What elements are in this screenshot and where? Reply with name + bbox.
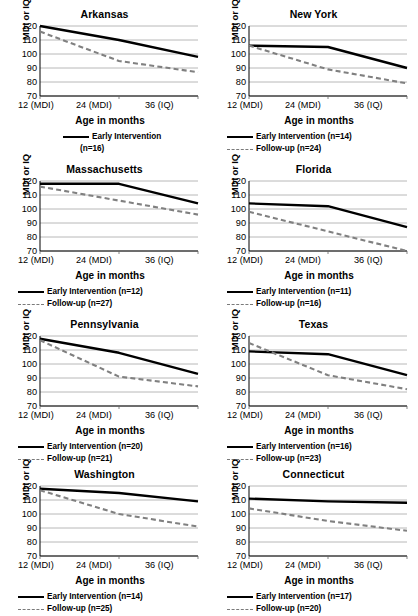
legend: Early Intervention (n=12)Follow-up (n=27… [18,286,208,310]
plot-area: 708090100110120 [14,177,204,255]
plot-area: 708090100110120 [223,332,413,410]
y-tick-label: 120 [22,482,37,491]
x-tick-label: 24 (MDI) [76,560,112,570]
panel-title: New York [209,8,418,20]
y-tick-label: 80 [27,387,37,397]
legend-solid-swatch-icon [63,136,89,138]
y-tick-label: 80 [27,232,37,242]
x-axis-title: Age in months [14,575,206,586]
y-tick-label: 120 [22,177,37,186]
legend-item: Follow-up (n=24) [227,143,417,155]
y-tick-label: 70 [236,246,246,255]
y-tick-label: 120 [231,332,246,341]
x-tick-labels: 12 (MDI)24 (MDI)36 (IQ) [14,100,206,114]
legend: Early Intervention (n=14)Follow-up (n=24… [227,131,417,155]
y-tick-label: 100 [22,359,37,369]
y-tick-label: 70 [27,401,37,410]
x-axis-title: Age in months [14,270,206,281]
chart-panel: WashingtonMDI or IQ70809010011012012 (MD… [0,460,209,616]
series-line [249,46,407,84]
legend-label: Early Intervention (n=12) [47,287,143,297]
x-tick-label: 12 (MDI) [227,255,263,265]
panel-grid: ArkansasMDI or IQ70809010011012012 (MDI)… [0,0,418,616]
y-tick-label: 120 [231,177,246,186]
y-tick-label: 80 [236,77,246,87]
x-tick-labels: 12 (MDI)24 (MDI)36 (IQ) [14,560,206,574]
x-tick-label: 24 (MDI) [76,100,112,110]
legend-label: Early Intervention (n=20) [47,442,143,452]
panel-title: Florida [209,163,418,175]
x-tick-label: 36 (IQ) [354,560,383,570]
x-tick-label: 12 (MDI) [18,255,54,265]
x-tick-labels: 12 (MDI)24 (MDI)36 (IQ) [223,560,415,574]
y-tick-label: 100 [231,49,246,59]
y-tick-label: 90 [27,373,37,383]
legend-item: Early Intervention (n=12) [18,286,208,298]
legend-item: Follow-up (n=20) [227,603,417,615]
y-tick-label: 90 [27,218,37,228]
x-tick-label: 36 (IQ) [354,100,383,110]
series-line [40,339,198,374]
x-tick-label: 24 (MDI) [285,410,321,420]
x-tick-label: 12 (MDI) [18,100,54,110]
plot-svg: 708090100110120 [14,332,204,410]
panel-title: Texas [209,318,418,330]
x-tick-label: 24 (MDI) [76,410,112,420]
y-tick-label: 90 [236,63,246,73]
y-tick-label: 80 [27,537,37,547]
legend-solid-swatch-icon [227,291,253,293]
x-axis-title: Age in months [14,115,206,126]
y-tick-label: 110 [22,190,37,200]
x-tick-label: 36 (IQ) [354,410,383,420]
x-tick-label: 12 (MDI) [18,410,54,420]
y-tick-label: 90 [27,63,37,73]
x-tick-label: 36 (IQ) [145,100,174,110]
y-tick-label: 110 [231,345,246,355]
plot-area: 708090100110120 [223,177,413,255]
y-tick-label: 90 [236,218,246,228]
y-tick-label: 100 [22,204,37,214]
plot-svg: 708090100110120 [223,177,413,255]
legend-item: Follow-up (n=25) [18,603,208,615]
legend-label: Early Intervention (n=11) [256,287,351,297]
plot-svg: 708090100110120 [14,22,204,100]
x-axis-title: Age in months [223,270,415,281]
y-tick-label: 90 [27,523,37,533]
plot-area: 708090100110120 [14,482,204,560]
panel-title: Arkansas [0,8,209,20]
legend-label: Early Intervention (n=16) [256,442,352,452]
x-tick-labels: 12 (MDI)24 (MDI)36 (IQ) [14,255,206,269]
legend-label: Follow-up (n=24) [256,144,321,154]
legend-label: Early Intervention (n=17) [256,592,352,602]
plot-svg: 708090100110120 [223,22,413,100]
y-tick-label: 100 [231,509,246,519]
y-tick-label: 70 [27,551,37,560]
y-tick-label: 80 [236,232,246,242]
legend-solid-swatch-icon [227,136,253,138]
x-tick-label: 12 (MDI) [227,560,263,570]
plot-svg: 708090100110120 [14,177,204,255]
legend-label: Follow-up (n=16) [256,299,321,309]
series-line [40,489,198,502]
y-tick-label: 90 [236,523,246,533]
legend-label: Follow-up (n=20) [256,604,321,614]
series-line [40,490,198,526]
x-tick-labels: 12 (MDI)24 (MDI)36 (IQ) [223,255,415,269]
y-tick-label: 100 [231,359,246,369]
plot-area: 708090100110120 [14,332,204,410]
legend-solid-swatch-icon [18,596,44,598]
legend: Early Intervention (n=11)Follow-up (n=16… [227,286,417,310]
x-axis-title: Age in months [223,115,415,126]
legend-dashed-swatch-icon [227,609,253,610]
legend-item: Early Intervention (n=16) [227,441,417,453]
legend-label: Follow-up (n=27) [47,299,112,309]
y-tick-label: 100 [22,49,37,59]
legend: Early Intervention(n=16) [18,131,208,154]
y-tick-label: 70 [27,91,37,100]
legend-label: Early Intervention (n=14) [47,592,143,602]
x-tick-label: 12 (MDI) [227,100,263,110]
y-tick-label: 110 [231,190,246,200]
legend-solid-swatch-icon [227,596,253,598]
x-axis-title: Age in months [223,575,415,586]
x-tick-label: 24 (MDI) [285,255,321,265]
